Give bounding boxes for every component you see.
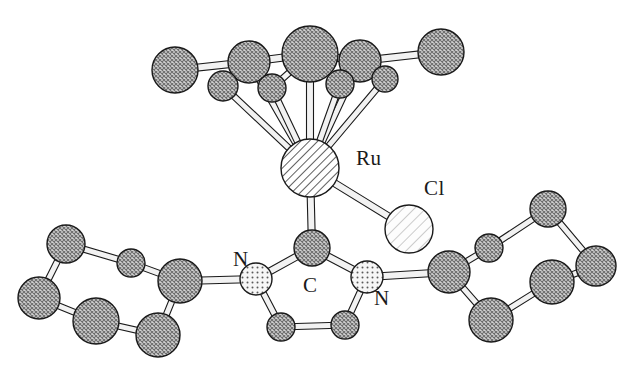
label-cl: Cl [424,178,445,199]
atom-ar5-C [258,74,286,102]
atom-me2-C [418,29,464,75]
atom-rp6-C [469,298,513,342]
atom-ar1-C [282,26,338,82]
atom-rp5-C [530,260,574,304]
label-n-left: N [233,249,249,270]
atom-lp2-C [117,249,145,277]
atom-lp5-C [73,298,119,344]
atom-c1-C [294,230,330,266]
label-c-carbene: C [303,275,318,296]
atom-ar7-C [372,66,398,92]
label-ru: Ru [356,148,382,169]
atom-lp6-C [136,313,180,357]
atom-c5-C [331,311,359,339]
molecule-canvas [0,0,629,368]
atom-ru1-Ru [281,139,339,197]
atom-lp1-C [158,259,202,303]
atom-rp4-C [576,246,616,286]
atom-ar6-C [326,70,354,98]
atom-lp3-C [47,225,85,263]
structure-figure: RuClNCN [0,0,629,368]
bond-c4-c5 [289,322,338,330]
atom-rp1-C [428,251,470,293]
atom-me1-C [152,47,198,93]
atom-rp2-C [475,234,503,262]
label-n-right: N [374,288,390,309]
atom-c4-C [267,313,295,341]
atom-layer [18,26,616,357]
atom-lp4-C [18,277,60,319]
atom-ar4-C [208,71,238,101]
atom-cl1-Cl [385,205,433,253]
atom-rp3-C [530,191,566,227]
